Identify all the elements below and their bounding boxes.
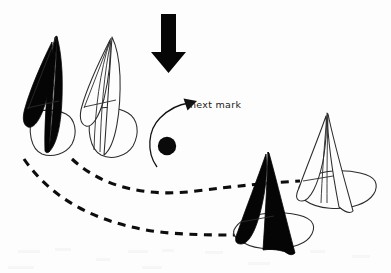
boat-white-rounding-right bbox=[297, 113, 377, 212]
wind-direction-arrow bbox=[151, 14, 186, 73]
sailing-diagram-svg: next mark bbox=[0, 0, 391, 273]
boat-black-upwind-left bbox=[23, 36, 75, 156]
scan-noise bbox=[8, 248, 370, 269]
racing-mark-buoy bbox=[158, 137, 176, 155]
boat-white-upwind-left bbox=[80, 37, 137, 157]
outside-boat-track bbox=[24, 159, 262, 235]
mainsail-body bbox=[263, 152, 293, 254]
boat-black-rounding-right bbox=[233, 152, 313, 255]
sailing-diagram-canvas: next mark bbox=[0, 0, 391, 273]
next-mark-label: next mark bbox=[190, 99, 241, 110]
